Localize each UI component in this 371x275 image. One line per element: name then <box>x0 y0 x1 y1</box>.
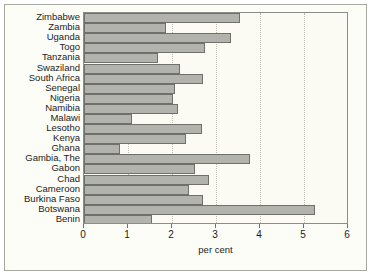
bar <box>84 164 195 174</box>
bar <box>84 104 178 114</box>
axis-tick-label: 0 <box>68 229 98 240</box>
bar-row <box>84 114 348 124</box>
category-label: Gabon <box>2 163 80 173</box>
bar <box>84 114 132 124</box>
bar <box>84 195 203 205</box>
bar <box>84 215 152 224</box>
bar-row <box>84 205 348 215</box>
bar <box>84 94 173 104</box>
axis-tick <box>347 224 348 228</box>
bar <box>84 124 202 134</box>
bar-row <box>84 134 348 144</box>
x-axis-title: per cent <box>83 244 348 255</box>
bar <box>84 84 175 94</box>
axis-tick-label: 4 <box>244 229 274 240</box>
bar <box>84 144 120 154</box>
axis-tick-label: 2 <box>156 229 186 240</box>
bar-row <box>84 94 348 104</box>
bar <box>84 13 240 23</box>
bar-row <box>84 154 348 164</box>
bar-row <box>84 84 348 94</box>
category-label: Tanzania <box>2 52 80 62</box>
bar <box>84 33 231 43</box>
bar <box>84 175 209 185</box>
plot-area <box>83 12 348 224</box>
bar-row <box>84 185 348 195</box>
bar-row <box>84 175 348 185</box>
bar <box>84 205 315 215</box>
axis-tick <box>127 224 128 228</box>
bar-row <box>84 64 348 74</box>
bar <box>84 43 205 53</box>
axis-tick-label: 5 <box>288 229 318 240</box>
axis-tick-label: 3 <box>200 229 230 240</box>
bar-row <box>84 164 348 174</box>
bar-row <box>84 43 348 53</box>
bar-row <box>84 53 348 63</box>
bar-row <box>84 104 348 114</box>
bar-row <box>84 124 348 134</box>
bar <box>84 53 158 63</box>
bar <box>84 23 166 33</box>
bar-row <box>84 74 348 84</box>
bar <box>84 185 189 195</box>
bar <box>84 154 250 164</box>
bar-row <box>84 144 348 154</box>
bar-row <box>84 13 348 23</box>
category-axis-labels: ZimbabweZambiaUgandaTogoTanzaniaSwazilan… <box>0 12 80 224</box>
axis-tick <box>171 224 172 228</box>
axis-tick <box>215 224 216 228</box>
bar-row <box>84 195 348 205</box>
bar-row <box>84 33 348 43</box>
bar <box>84 74 203 84</box>
bar <box>84 134 186 144</box>
chart-figure: ZimbabweZambiaUgandaTogoTanzaniaSwazilan… <box>0 0 371 275</box>
bar <box>84 64 180 74</box>
axis-tick <box>259 224 260 228</box>
bar-row <box>84 23 348 33</box>
axis-tick-label: 6 <box>332 229 362 240</box>
axis-tick <box>83 224 84 228</box>
bar-row <box>84 215 348 224</box>
category-label: Benin <box>2 214 80 224</box>
axis-tick <box>303 224 304 228</box>
axis-tick-label: 1 <box>112 229 142 240</box>
